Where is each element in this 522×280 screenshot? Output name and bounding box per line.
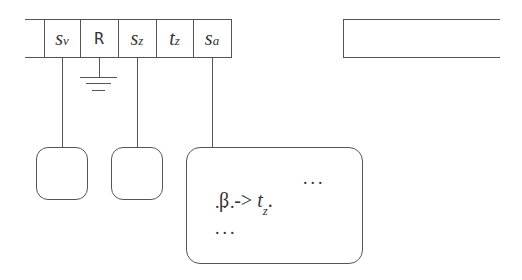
detail-ellipsis-2: ... [215,192,238,213]
ground-bar-1 [80,77,117,78]
connector-s-v [62,57,63,147]
var-base: t [257,189,263,211]
detail-ellipsis-1: ... [303,168,326,189]
cell-base: R [94,29,104,48]
cell-s-a: sa [193,19,231,57]
cell-r: R [80,19,118,57]
right-record-top [343,19,500,20]
cell-base: s [55,27,63,50]
ground-bar-3 [92,90,105,91]
cell-sub: z [138,33,143,49]
detail-ellipsis-3: ... [215,218,238,239]
cell-sub: v [63,33,69,49]
cell-sub: z [175,33,180,49]
cell-s-z: sz [118,19,156,57]
stack-bottom-border [25,57,232,58]
ground-stem [99,57,100,77]
connector-s-a [212,57,213,147]
right-record-bottom [343,57,500,58]
var-sub: z [263,203,268,218]
node-s-v-target [36,147,88,200]
node-s-a-detail: β -> tz. ... ... ... [186,147,363,264]
node-s-z-target [111,147,163,200]
stack-right-border [231,19,232,57]
connector-s-z [137,57,138,147]
cell-sub: a [213,33,220,49]
right-record-left [343,19,344,57]
cell-t-z: tz [156,19,193,57]
ground-bar-2 [86,83,111,84]
cell-s-v: sv [44,19,80,57]
period: . [268,189,273,211]
cell-base: s [205,27,213,50]
